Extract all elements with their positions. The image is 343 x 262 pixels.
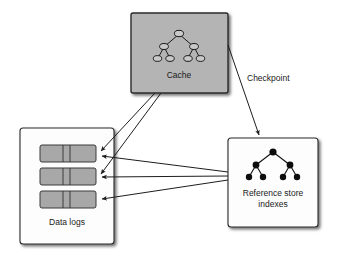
edge-reference-to-log-bar-2 — [102, 176, 228, 177]
tree-node-right — [190, 44, 199, 50]
tree-node-leaf — [294, 174, 300, 180]
tree-node-left — [160, 44, 169, 50]
reference-store-label-line-1: Reference store — [243, 188, 304, 198]
edge-checkpoint — [228, 45, 259, 135]
tree-node-root — [174, 30, 183, 36]
tree-node-leaf — [166, 56, 174, 62]
node-cache[interactable] — [131, 13, 228, 93]
tree-node-leaf — [260, 174, 266, 180]
cache-box[interactable] — [131, 13, 228, 93]
tree-node-root — [269, 148, 276, 155]
edge-reference-to-log-bar-3 — [102, 180, 228, 199]
data-logs-label: Data logs — [49, 217, 85, 227]
edge-reference-to-log-bar-1 — [102, 156, 228, 172]
tree-node-leaf — [153, 56, 161, 62]
log-bar[interactable] — [40, 168, 96, 185]
log-bar-1[interactable] — [40, 145, 96, 162]
data-logs-bars-group — [40, 145, 96, 208]
reference-store-label-line-2: indexes — [258, 199, 287, 209]
tree-node-left — [253, 162, 260, 169]
tree-node-leaf — [280, 174, 286, 180]
cache-label: Cache — [167, 70, 192, 80]
diagram-svg: Data logs Reference store indexes — [0, 0, 343, 262]
tree-node-right — [287, 162, 294, 169]
edges-reference-to-data-logs — [102, 156, 228, 199]
tree-node-leaf — [246, 174, 252, 180]
tree-node-leaf — [196, 56, 204, 62]
log-bar[interactable] — [40, 145, 96, 162]
tree-node-leaf — [184, 56, 192, 62]
log-bar[interactable] — [40, 191, 96, 208]
checkpoint-label: Checkpoint — [247, 73, 290, 83]
log-bar-2[interactable] — [40, 168, 96, 185]
log-bar-3[interactable] — [40, 191, 96, 208]
diagram-canvas: Data logs Reference store indexes — [0, 0, 343, 262]
edge-cache-to-log-bar-1 — [101, 93, 155, 151]
